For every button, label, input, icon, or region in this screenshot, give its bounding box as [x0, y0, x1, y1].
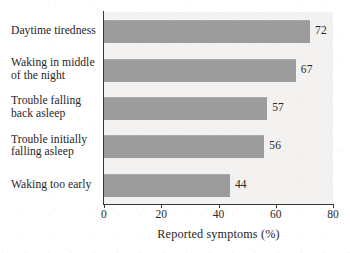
category-label: Waking too early	[11, 179, 101, 192]
bar	[104, 174, 230, 197]
bar	[104, 20, 310, 43]
bar-value-label: 57	[272, 102, 284, 114]
bar-row: 72	[104, 20, 333, 42]
bar-value-label: 56	[269, 141, 281, 153]
category-label: Waking in middleof the night	[11, 57, 101, 82]
x-axis-tick-label: 20	[155, 209, 167, 221]
bar	[104, 135, 264, 158]
bar	[104, 59, 296, 82]
category-label-line: of the night	[11, 70, 101, 83]
category-label: Trouble initiallyfalling asleep	[11, 134, 101, 159]
bar-row: 56	[104, 135, 333, 157]
x-axis-tick-label: 0	[101, 209, 107, 221]
category-label-line: Waking too early	[11, 179, 101, 192]
bar-row: 67	[104, 59, 333, 81]
bar-row: 44	[104, 174, 333, 196]
x-axis-tick-label: 60	[270, 209, 282, 221]
category-label-line: back asleep	[11, 108, 101, 121]
bar-chart-figure: 7267575644 Daytime tirednessWaking in mi…	[0, 0, 350, 253]
bar-value-label: 67	[301, 64, 313, 76]
bar-row: 57	[104, 97, 333, 119]
category-label-line: falling asleep	[11, 146, 101, 159]
bar-value-label: 44	[235, 179, 247, 191]
category-label-line: Daytime tiredness	[11, 25, 101, 38]
bar	[104, 97, 267, 120]
x-axis-title: Reported symptoms (%)	[104, 228, 333, 240]
category-label-line: Waking in middle	[11, 57, 101, 70]
category-label: Daytime tiredness	[11, 25, 101, 38]
x-axis-tick-label: 80	[327, 209, 339, 221]
category-label: Trouble fallingback asleep	[11, 95, 101, 120]
x-axis-tick-label: 40	[213, 209, 225, 221]
bar-value-label: 72	[315, 25, 327, 37]
